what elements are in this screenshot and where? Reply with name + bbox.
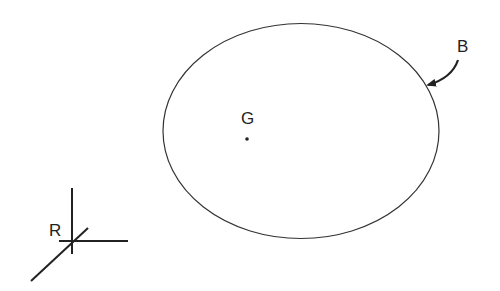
body-label: B <box>457 37 468 56</box>
body-pointer-arrow <box>428 60 458 85</box>
diagram-canvas: B G R <box>0 0 500 291</box>
reference-frame-label: R <box>49 221 61 240</box>
body-ellipse <box>163 24 439 239</box>
reference-frame-axes <box>31 188 128 281</box>
center-of-mass-point <box>245 137 249 141</box>
center-of-mass-label: G <box>241 109 254 128</box>
